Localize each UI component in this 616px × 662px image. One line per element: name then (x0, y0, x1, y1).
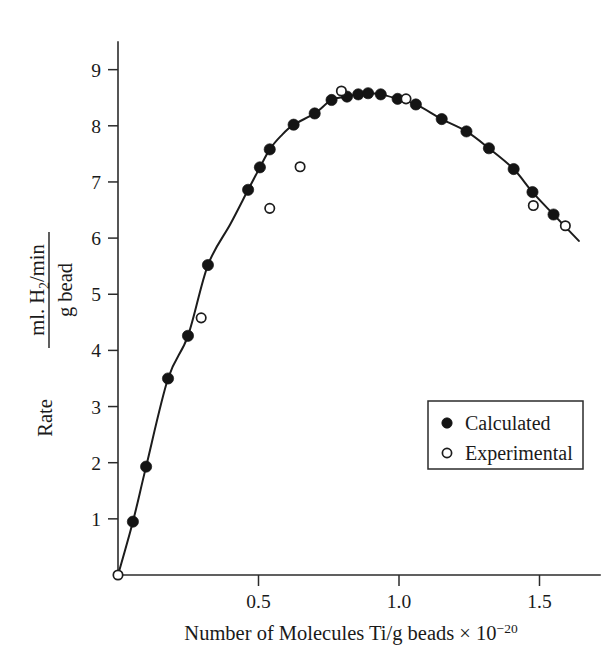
y-tick-label-9: 9 (91, 60, 101, 81)
chart-figure: 123456789 0.51.01.5 Calculated Experimen… (0, 0, 616, 662)
y-axis-title-numerator: ml. H2/min (26, 244, 52, 335)
data-point-calculated-22 (548, 209, 559, 220)
data-point-calculated-10 (326, 94, 337, 105)
rate-vs-ti-molecules-chart: 123456789 0.51.01.5 Calculated Experimen… (0, 0, 616, 662)
y-tick-label-5: 5 (91, 284, 101, 305)
y-tick-label-1: 1 (91, 509, 101, 530)
x-axis-title: Number of Molecules Ti/g beads × 10−20 (184, 621, 518, 645)
data-point-experimental-3 (295, 162, 304, 171)
data-point-calculated-14 (375, 89, 386, 100)
data-point-calculated-4 (202, 259, 213, 270)
x-tick-label-0.5: 0.5 (246, 591, 270, 612)
y-tick-label-3: 3 (91, 397, 101, 418)
data-point-experimental-5 (401, 94, 410, 103)
data-point-experimental-1 (196, 313, 205, 322)
data-point-calculated-1 (141, 461, 152, 472)
y-tick-label-7: 7 (91, 172, 101, 193)
y-axis-num-post: /min (26, 244, 48, 282)
y-axis-num-sub: 2 (37, 282, 52, 289)
y-tick-label-2: 2 (91, 453, 101, 474)
x-axis-ticks: 0.51.01.5 (246, 575, 551, 612)
legend-label-experimental: Experimental (465, 442, 573, 465)
legend-marker-experimental (442, 448, 451, 457)
data-point-calculated-0 (127, 516, 138, 527)
data-point-calculated-20 (508, 163, 519, 174)
data-point-calculated-6 (254, 162, 265, 173)
data-point-calculated-21 (527, 186, 538, 197)
data-point-calculated-18 (461, 126, 472, 137)
data-point-experimental-7 (561, 221, 570, 230)
data-point-calculated-8 (288, 119, 299, 130)
data-point-experimental-0 (113, 570, 122, 579)
data-point-calculated-13 (362, 88, 373, 99)
legend: Calculated Experimental (428, 401, 583, 469)
y-axis-title-denominator: g bead (54, 263, 77, 317)
data-point-calculated-5 (243, 184, 254, 195)
data-point-calculated-2 (162, 373, 173, 384)
y-axis-ticks: 123456789 (91, 60, 118, 530)
data-point-experimental-6 (529, 201, 538, 210)
y-tick-label-8: 8 (91, 116, 101, 137)
data-point-calculated-19 (483, 143, 494, 154)
legend-marker-calculated (442, 418, 452, 428)
x-tick-label-1.5: 1.5 (527, 591, 551, 612)
y-tick-label-4: 4 (91, 340, 101, 361)
y-axis-title-prefix: Rate (34, 399, 56, 437)
legend-label-calculated: Calculated (465, 412, 551, 434)
data-point-calculated-3 (182, 330, 193, 341)
data-point-experimental-4 (337, 86, 346, 95)
y-axis-title: Rate ml. H2/min g bead (26, 232, 77, 437)
x-tick-label-1: 1.0 (387, 591, 411, 612)
plot-axes (118, 42, 600, 575)
svg-text:Number of Molecules Ti/g beads: Number of Molecules Ti/g beads × 10−20 (184, 621, 518, 645)
data-point-calculated-12 (353, 89, 364, 100)
data-point-experimental-2 (265, 204, 274, 213)
x-axis-title-main: Number of Molecules Ti/g beads × 10 (184, 622, 496, 645)
data-point-calculated-16 (410, 99, 421, 110)
series-experimental-points (113, 86, 570, 579)
data-point-calculated-17 (436, 113, 447, 124)
data-point-calculated-9 (309, 108, 320, 119)
x-axis-title-exponent: −20 (497, 621, 518, 636)
y-axis-num-pre: ml. H (26, 289, 48, 336)
data-point-calculated-7 (264, 144, 275, 155)
y-tick-label-6: 6 (91, 228, 101, 249)
